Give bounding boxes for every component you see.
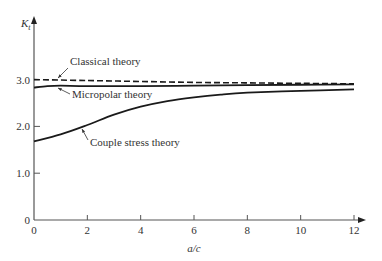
series-classical-theory bbox=[34, 80, 354, 84]
annotation-classical-theory: Classical theory bbox=[70, 55, 141, 67]
y-tick-label: 2.0 bbox=[16, 120, 30, 132]
x-tick-label: 4 bbox=[138, 224, 144, 236]
x-tick-label: 8 bbox=[245, 224, 251, 236]
x-axis-label: a/c bbox=[187, 242, 201, 254]
y-tick-label: 1.0 bbox=[16, 167, 30, 179]
axes bbox=[31, 16, 366, 223]
x-tick-label: 6 bbox=[191, 224, 197, 236]
y-axis-label-subscript: t bbox=[28, 23, 31, 32]
annotation-couple-stress-theory: Couple stress theory bbox=[90, 136, 180, 148]
annotation-micropolar-theory: Micropolar theory bbox=[72, 88, 153, 100]
x-axis-arrow-icon bbox=[358, 217, 366, 223]
x-tick-label: 12 bbox=[349, 224, 360, 236]
y-axis-arrow-icon bbox=[31, 16, 37, 24]
x-tick-label: 0 bbox=[31, 224, 37, 236]
y-tick-label: 0 bbox=[25, 214, 31, 226]
chart: 02468101201.02.03.0 Classical theoryMicr… bbox=[0, 0, 382, 261]
y-axis-label: Kt bbox=[20, 17, 31, 32]
x-tick-label: 10 bbox=[295, 224, 307, 236]
y-tick-label: 3.0 bbox=[16, 74, 30, 86]
x-tick-label: 2 bbox=[85, 224, 91, 236]
